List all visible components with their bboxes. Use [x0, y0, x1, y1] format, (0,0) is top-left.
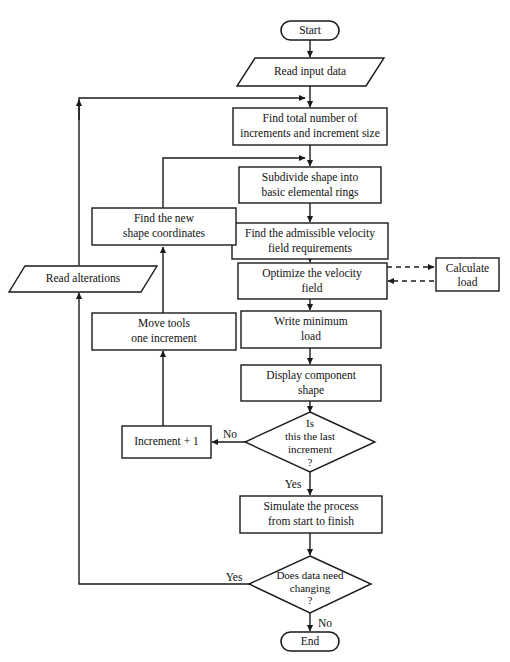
- flowchart-canvas: Start Read input data Find total number …: [0, 0, 510, 662]
- node-find-total-increments: Find total number of increments and incr…: [233, 108, 387, 145]
- node-display-component-line1: Display component: [266, 369, 357, 382]
- node-decision-last-increment: Is this the last increment ?: [245, 412, 375, 472]
- node-find-admissible-line1: Find the admissible velocity: [245, 227, 375, 240]
- node-increment-plus-one: Increment + 1: [122, 426, 211, 458]
- node-move-tools-one-increment: Move tools one increment: [92, 313, 236, 350]
- node-simulate-line1: Simulate the process: [263, 500, 359, 513]
- node-calculate-load: Calculate load: [436, 258, 499, 291]
- node-find-new-shape-coordinates: Find the new shape coordinates: [92, 208, 236, 245]
- edge-label-data-yes: Yes: [226, 571, 243, 583]
- node-decision-increment-line2: this the last: [285, 430, 335, 442]
- node-write-minimum-load: Write minimum load: [241, 311, 381, 348]
- node-find-new-shape-line2: shape coordinates: [123, 227, 206, 240]
- node-start: Start: [281, 21, 339, 40]
- node-read-alterations: Read alterations: [9, 266, 157, 292]
- node-find-total-line2: increments and increment size: [240, 127, 380, 139]
- node-move-tools-line2: one increment: [131, 332, 197, 344]
- node-write-minimum-line2: load: [301, 330, 321, 342]
- node-optimize-velocity-field: Optimize the velocity field: [238, 263, 387, 299]
- node-move-tools-line1: Move tools: [138, 317, 191, 329]
- node-display-component-shape: Display component shape: [241, 365, 381, 401]
- node-optimize-line1: Optimize the velocity: [262, 267, 362, 280]
- node-find-total-line1: Find total number of: [263, 112, 358, 124]
- node-start-label: Start: [299, 24, 322, 36]
- node-find-admissible-line2: field requirements: [268, 242, 353, 255]
- node-decision-data-line3: ?: [308, 594, 313, 606]
- node-decision-increment-line1: Is: [306, 417, 314, 429]
- node-decision-data-line1: Does data need: [276, 569, 344, 581]
- flowchart-diagram: Start Read input data Find total number …: [0, 0, 510, 662]
- node-end-label: End: [301, 635, 320, 647]
- node-optimize-line2: field: [301, 282, 322, 294]
- node-simulate-process: Simulate the process from start to finis…: [240, 496, 382, 533]
- node-read-input-data-label: Read input data: [274, 65, 346, 78]
- node-subdivide-line1: Subdivide shape into: [262, 171, 359, 184]
- edge-label-data-no: No: [318, 617, 332, 629]
- node-calculate-load-line2: load: [458, 276, 478, 288]
- node-decision-data-line2: changing: [290, 582, 331, 594]
- node-subdivide-line2: basic elemental rings: [261, 186, 359, 199]
- node-find-new-shape-line1: Find the new: [134, 212, 195, 224]
- node-decision-increment-line4: ?: [308, 456, 313, 468]
- node-calculate-load-line1: Calculate: [446, 262, 489, 274]
- node-decision-data-changing: Does data need changing ?: [249, 556, 371, 613]
- edge-label-increment-yes: Yes: [285, 478, 302, 490]
- edge-label-increment-no: No: [223, 428, 237, 440]
- node-increment-plus-one-label: Increment + 1: [134, 435, 199, 447]
- node-read-alterations-label: Read alterations: [46, 272, 121, 284]
- node-simulate-line2: from start to finish: [268, 515, 354, 527]
- node-subdivide-shape: Subdivide shape into basic elemental rin…: [239, 167, 381, 203]
- node-find-admissible-velocity: Find the admissible velocity field requi…: [232, 223, 388, 259]
- node-display-component-line2: shape: [298, 384, 324, 397]
- node-read-input-data: Read input data: [237, 58, 384, 86]
- node-end: End: [281, 632, 339, 651]
- node-decision-increment-line3: increment: [288, 443, 332, 455]
- node-write-minimum-line1: Write minimum: [274, 315, 347, 327]
